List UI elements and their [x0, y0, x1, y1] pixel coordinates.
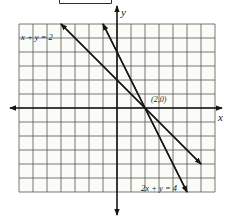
line2-equation-label: 2x + y = 4	[141, 183, 178, 193]
line1-equation-label: x + y = 2	[20, 32, 54, 42]
graph-figure: x + y = 2 2x + y = 4 (2,0) x y	[0, 0, 230, 223]
intersection-point-label: (2,0)	[151, 95, 167, 104]
cropped-box-top	[60, 0, 112, 4]
y-axis-label: y	[120, 6, 126, 18]
screenshot-root: { "chart_data": { "type": "line", "title…	[0, 0, 230, 223]
x-axis-label: x	[217, 111, 223, 123]
